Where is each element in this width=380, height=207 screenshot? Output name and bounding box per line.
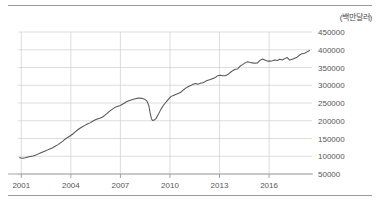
y-axis-tick-label: 100000 [318, 152, 345, 161]
y-axis-tick-label: 150000 [318, 135, 345, 144]
chart-figure: (백만달러) 450000400000350000300000250000200… [0, 0, 380, 207]
series-group [20, 50, 310, 158]
y-axis-tick-label: 450000 [318, 28, 345, 37]
yaxis-labels-group: 4500004000003500003000002500002000001500… [318, 28, 345, 179]
x-axis-tick-label: 2004 [62, 181, 80, 190]
y-axis-tick-label: 400000 [318, 46, 345, 55]
y-axis-tick-label: 200000 [318, 117, 345, 126]
line-chart-plot: 4500004000003500003000002500002000001500… [0, 0, 380, 207]
x-axis-tick-label: 2013 [211, 181, 229, 190]
x-axis-tick-label: 2016 [260, 181, 278, 190]
x-axis-tick-label: 2010 [161, 181, 179, 190]
y-axis-tick-label: 350000 [318, 64, 345, 73]
x-axis-tick-label: 2001 [12, 181, 30, 190]
xaxis-labels-group: 200120042007201020132016 [12, 181, 278, 190]
x-axis-tick-label: 2007 [112, 181, 130, 190]
y-axis-tick-label: 50000 [318, 170, 341, 179]
xaxis-group [8, 174, 313, 178]
series-line [20, 50, 310, 158]
y-axis-tick-label: 250000 [318, 99, 345, 108]
bottom-divider [8, 195, 372, 196]
y-axis-tick-label: 300000 [318, 81, 345, 90]
